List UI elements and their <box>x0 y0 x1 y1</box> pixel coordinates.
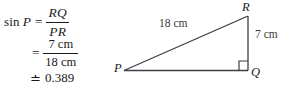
vertex-label-R: R <box>242 0 250 15</box>
fraction-denominator-PR: PR <box>47 24 68 39</box>
equation-line-3: ≐ 0.389 <box>30 70 74 86</box>
angle-variable-P: P <box>23 14 31 30</box>
figure-page: sin P = RQ PR = 7 cm 18 cm ≐ 0.389 <box>0 0 290 89</box>
equals-sign-line-1: = <box>35 14 42 30</box>
triangle-svg <box>108 0 290 89</box>
equation-line-2: = 7 cm 18 cm <box>28 38 78 68</box>
fraction-7cm-over-18cm: 7 cm 18 cm <box>43 38 78 68</box>
vertex-label-P: P <box>114 61 122 76</box>
sine-result-value: 0.389 <box>45 70 74 86</box>
fraction-bar <box>43 53 78 54</box>
triangle-diagram: P R Q 18 cm 7 cm <box>108 0 290 89</box>
fraction-RQ-over-PR: RQ PR <box>46 6 69 38</box>
fraction-denominator-18cm: 18 cm <box>43 55 78 69</box>
sine-function-name: sin <box>4 14 20 30</box>
fraction-numerator-7cm: 7 cm <box>46 38 75 52</box>
equation-block: sin P = RQ PR = 7 cm 18 cm ≐ 0.389 <box>4 2 116 87</box>
equals-sign-line-2: = <box>32 45 39 61</box>
equation-line-1: sin P = RQ PR <box>4 6 69 38</box>
side-label-opposite-7cm: 7 cm <box>255 28 278 40</box>
side-label-hypotenuse-18cm: 18 cm <box>159 17 187 29</box>
vertex-label-Q: Q <box>251 65 260 80</box>
fraction-bar <box>46 22 69 23</box>
fraction-numerator-RQ: RQ <box>46 6 69 21</box>
approximately-equal-sign: ≐ <box>30 71 41 87</box>
right-angle-marker-icon <box>239 61 248 70</box>
